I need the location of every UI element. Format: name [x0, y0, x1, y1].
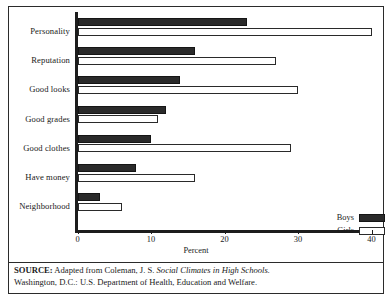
bar-girls-good-clothes — [78, 144, 291, 152]
category-label-good-grades: Good grades — [6, 115, 70, 124]
x-tick-label-10: 10 — [147, 235, 155, 244]
x-tick-20 — [225, 230, 226, 234]
bar-boys-good-grades — [78, 106, 166, 114]
bars-canvas — [75, 12, 377, 230]
x-tick-40 — [372, 230, 373, 234]
category-label-have-money: Have money — [6, 173, 70, 182]
category-label-good-looks: Good looks — [6, 85, 70, 94]
bar-girls-have-money — [78, 174, 196, 182]
bar-girls-good-grades — [78, 115, 159, 123]
source-divider — [8, 262, 384, 263]
category-label-reputation: Reputation — [6, 56, 70, 65]
bar-girls-reputation — [78, 57, 276, 65]
x-tick-label-20: 20 — [220, 235, 228, 244]
bar-girls-good-looks — [78, 86, 299, 94]
bar-boys-have-money — [78, 164, 137, 172]
x-tick-30 — [298, 230, 299, 234]
bar-boys-good-clothes — [78, 135, 152, 143]
figure-container: PersonalityReputationGood looksGood grad… — [0, 0, 392, 302]
legend-item-boys: Boys — [313, 212, 385, 223]
x-tick-label-40: 40 — [367, 235, 375, 244]
bar-girls-personality — [78, 28, 372, 36]
bar-boys-personality — [78, 18, 247, 26]
category-label-personality: Personality — [6, 27, 70, 36]
x-tick-label-30: 30 — [294, 235, 302, 244]
legend-label-girls: Girls — [337, 226, 354, 235]
legend-swatch-boys-icon — [359, 214, 385, 222]
x-axis-title: Percent — [8, 246, 384, 255]
category-label-neighborhood: Neighborhood — [6, 202, 70, 211]
legend-label-boys: Boys — [337, 213, 354, 222]
source-text-lead: Adapted from Coleman, J. S. — [53, 265, 157, 275]
x-tick-0 — [78, 230, 79, 234]
source-note: SOURCE: Adapted from Coleman, J. S. Soci… — [14, 265, 380, 288]
bar-boys-good-looks — [78, 76, 181, 84]
source-title: Social Climates in High Schools. — [157, 265, 270, 275]
plot-area: PersonalityReputationGood looksGood grad… — [8, 12, 384, 242]
x-tick-label-0: 0 — [75, 235, 79, 244]
category-label-good-clothes: Good clothes — [6, 144, 70, 153]
source-publisher: Washington, D.C.: U.S. Department of Hea… — [14, 277, 257, 287]
bar-boys-reputation — [78, 47, 196, 55]
bar-girls-neighborhood — [78, 203, 122, 211]
bar-boys-neighborhood — [78, 193, 100, 201]
source-prefix: SOURCE: — [14, 265, 53, 275]
x-tick-10 — [151, 230, 152, 234]
category-axis-labels: PersonalityReputationGood looksGood grad… — [8, 12, 74, 230]
